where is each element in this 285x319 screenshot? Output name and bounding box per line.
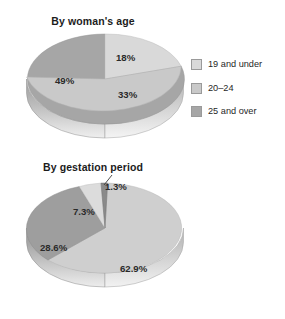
pie-chart-by-womans-age: By woman's age 18% 33% 49% xyxy=(0,0,285,160)
pie-graphic-gestation xyxy=(0,155,285,319)
pie-label-age-0: 18% xyxy=(116,52,135,63)
pie-label-gestation-3: 1.3% xyxy=(105,181,127,192)
legend-item-25-and-over[interactable]: 25 and over xyxy=(191,105,262,118)
pie-label-gestation-0: 62.9% xyxy=(120,263,147,274)
legend-swatch-icon-25-and-over xyxy=(191,106,202,117)
legend-item-20-24[interactable]: 20–24 xyxy=(191,82,262,95)
pie-label-age-1: 33% xyxy=(118,89,137,100)
legend-label-25-and-over: 25 and over xyxy=(208,106,257,117)
legend-swatch-icon-19-and-under xyxy=(191,59,202,70)
legend-item-19-and-under[interactable]: 19 and under xyxy=(191,58,262,71)
legend-label-20-24: 20–24 xyxy=(208,83,234,94)
pie-chart-by-gestation-period: By gestation period 62.9% xyxy=(0,155,285,319)
pie-label-gestation-2: 7.3% xyxy=(73,206,95,217)
legend-swatch-icon-20-24 xyxy=(191,83,202,94)
legend-label-19-and-under: 19 and under xyxy=(208,59,262,70)
legend-age: 19 and under 20–24 25 and over xyxy=(191,58,262,129)
pie-label-gestation-1: 28.6% xyxy=(40,242,67,253)
pie-label-age-2: 49% xyxy=(55,75,74,86)
